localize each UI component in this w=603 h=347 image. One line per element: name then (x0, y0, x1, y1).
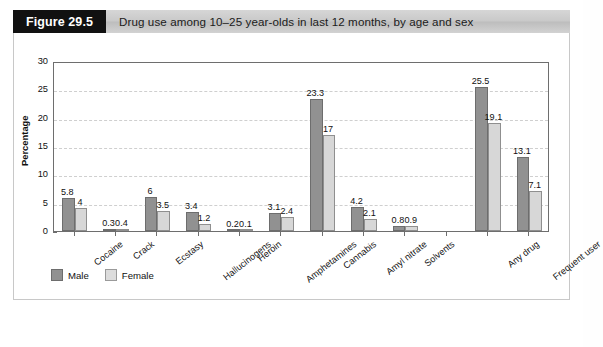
x-category-label: Ecstasy (174, 239, 206, 267)
x-tick-mark (487, 232, 488, 236)
x-category-label: Frequent user (551, 239, 602, 282)
x-tick-mark (528, 232, 529, 236)
gridline (54, 148, 548, 149)
figure-header: Figure 29.5 Drug use among 10–25 year-ol… (13, 10, 570, 33)
bar-male (517, 157, 530, 231)
bar-value-label: 4.2 (345, 197, 368, 206)
bar-female (364, 219, 377, 231)
bar-value-label: 0.9 (399, 216, 422, 225)
gridline (54, 120, 548, 121)
x-category-label: Cocaine (92, 239, 125, 268)
plot-frame (53, 62, 549, 232)
x-tick-mark (239, 232, 240, 236)
x-tick-mark (115, 232, 116, 236)
bar-chart: Percentage 051015202530 CocaineCrackEcst… (14, 33, 571, 300)
y-tick-label: 0 (22, 227, 48, 236)
bar-value-label: 2.1 (358, 209, 381, 218)
gridline (54, 91, 548, 92)
x-tick-mark (156, 232, 157, 236)
legend-swatch-female (105, 269, 117, 281)
bar-value-label: 2.4 (275, 207, 298, 216)
bar-value-label: 3.4 (180, 202, 203, 211)
y-tick-label: 5 (22, 199, 48, 208)
bar-male (475, 87, 488, 232)
figure-title: Drug use among 10–25 year-olds in last 1… (106, 10, 473, 33)
gridline (54, 205, 548, 206)
bar-female (488, 123, 501, 231)
bar-value-label: 0.1 (234, 220, 257, 229)
bar-value-label: 13.1 (511, 147, 534, 156)
bar-value-label: 0.4 (110, 219, 133, 228)
bar-value-label: 4 (69, 198, 92, 207)
legend-item: Male (51, 269, 89, 281)
x-tick-mark (280, 232, 281, 236)
x-category-label: Amyl nitrate (384, 239, 428, 277)
bar-female (199, 224, 212, 231)
figure-panel: Percentage 051015202530 CocaineCrackEcst… (13, 33, 570, 300)
y-tick-label: 20 (22, 114, 48, 123)
bar-female (75, 208, 88, 231)
x-tick-mark (198, 232, 199, 236)
legend-label: Male (68, 270, 89, 281)
gridline (54, 176, 548, 177)
x-category-label: Any drug (506, 239, 541, 270)
bar-female (405, 226, 418, 231)
bar-female (157, 211, 170, 231)
bar-female (116, 229, 129, 231)
bar-value-label: 3.5 (151, 201, 174, 210)
bar-value-label: 7.1 (523, 181, 546, 190)
y-tick-label: 10 (22, 170, 48, 179)
figure-number-badge: Figure 29.5 (13, 10, 106, 33)
x-tick-mark (322, 232, 323, 236)
x-tick-mark (363, 232, 364, 236)
y-tick-mark (53, 232, 57, 233)
x-tick-mark (446, 232, 447, 236)
y-axis-label: Percentage (19, 115, 30, 166)
bar-male (310, 99, 323, 231)
y-tick-label: 25 (22, 85, 48, 94)
bar-value-label: 25.5 (469, 77, 492, 86)
x-tick-mark (404, 232, 405, 236)
chart-legend: MaleFemale (51, 269, 163, 281)
bar-value-label: 23.3 (304, 89, 327, 98)
x-category-label: Crack (131, 239, 156, 262)
y-tick-label: 15 (22, 142, 48, 151)
x-tick-mark (74, 232, 75, 236)
x-category-label: Solvents (423, 239, 457, 269)
bar-female (323, 135, 336, 231)
bar-female (529, 191, 542, 231)
bar-male (393, 226, 406, 231)
legend-item: Female (105, 269, 154, 281)
bar-male (227, 229, 240, 231)
legend-swatch-male (51, 269, 63, 281)
y-tick-label: 30 (22, 57, 48, 66)
bar-value-label: 5.8 (56, 188, 79, 197)
bar-value-label: 1.2 (193, 214, 216, 223)
bar-value-label: 17 (317, 125, 340, 134)
bar-male (103, 229, 116, 231)
bar-value-label: 6 (139, 187, 162, 196)
legend-label: Female (122, 270, 154, 281)
bar-female (240, 229, 253, 231)
bar-value-label: 19.1 (482, 113, 505, 122)
bar-female (281, 217, 294, 231)
